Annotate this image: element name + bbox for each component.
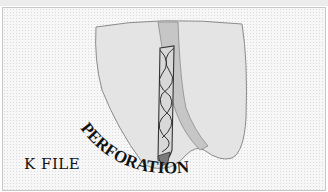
k-file-label: K FILE <box>24 155 80 173</box>
